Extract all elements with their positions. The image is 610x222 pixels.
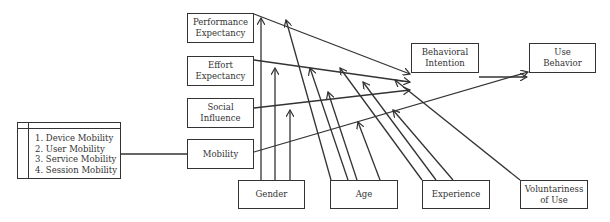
connector-arrows: [0, 0, 610, 222]
use-behavior-box: Use Behavior: [529, 43, 596, 73]
gender-box: Gender: [238, 180, 305, 209]
mobility-type-item: 3. Service Mobility: [35, 154, 117, 165]
age-box: Age: [330, 180, 398, 209]
mobility-box: Mobility: [187, 139, 254, 169]
social-influence-box: Social Influence: [187, 98, 254, 128]
list-side-bar: [28, 123, 29, 178]
voluntariness-of-use-box: Voluntariness of Use: [520, 180, 588, 209]
mobility-type-item: 1. Device Mobility: [35, 133, 117, 144]
list-header-bar: [18, 123, 120, 129]
performance-expectancy-box: Performance Expectancy: [187, 13, 254, 43]
behavioral-intention-box: Behavioral Intention: [411, 43, 479, 73]
effort-expectancy-box: Effort Expectancy: [187, 56, 254, 86]
mobility-type-item: 2. User Mobility: [35, 144, 117, 155]
experience-box: Experience: [422, 180, 490, 209]
mobility-types-list: 1. Device Mobility 2. User Mobility 3. S…: [17, 122, 121, 179]
mobility-type-item: 4. Session Mobility: [35, 165, 117, 176]
